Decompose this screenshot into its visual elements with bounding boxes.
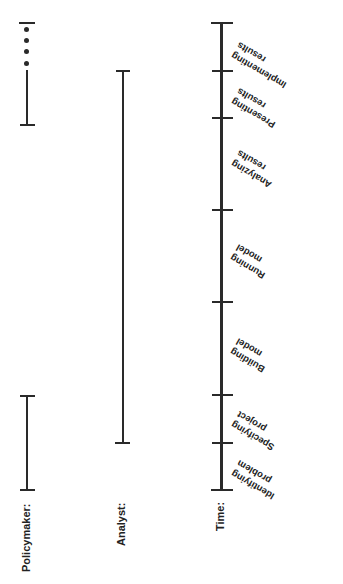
analyst-bottom-cap (115, 442, 130, 444)
analyst-label: Analyst: (115, 503, 127, 546)
policymaker-upper-bottom-cap (20, 124, 35, 126)
continuation-dot (24, 49, 29, 54)
continuation-dot (24, 38, 29, 43)
time-tick (212, 117, 233, 119)
analyst-bar (122, 70, 124, 443)
time-tick (211, 22, 233, 24)
stage-label-building-model: Building model (228, 335, 309, 396)
policymaker-upper-top-cap (19, 22, 35, 24)
stage-label-running-model: Running model (228, 241, 309, 302)
time-tick (212, 70, 233, 72)
time-tick (212, 394, 233, 396)
time-label: Time: (214, 502, 226, 531)
policymaker-lower-bar (26, 395, 28, 490)
continuation-dot (24, 61, 29, 66)
policymaker-lower-bottom-cap (20, 489, 35, 491)
time-axis-line (220, 23, 223, 490)
time-tick (212, 301, 233, 303)
time-tick (211, 489, 233, 491)
stage-label-analyzing-results: Analyzing results (229, 147, 310, 208)
policymaker-label: Policymaker: (20, 504, 32, 572)
continuation-dot (24, 27, 29, 32)
policymaker-upper-bar (26, 70, 28, 125)
time-tick (212, 442, 233, 444)
time-tick (212, 209, 233, 211)
